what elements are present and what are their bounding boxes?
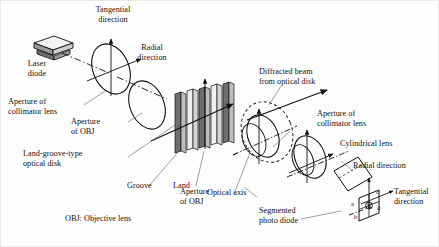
laser-diode xyxy=(34,36,73,60)
label-tangential-direction-left: Tangential direction xyxy=(82,5,144,24)
label-laser-diode: Laser diode xyxy=(16,59,58,78)
label-photodiode-segment-b: b xyxy=(354,213,357,220)
legend-obj-objective-lens: OBJ: Objective lens xyxy=(65,214,131,224)
label-aperture-collimator-left: Aperture of collimator lens xyxy=(8,97,94,116)
label-radial-direction-left: Radial direction xyxy=(130,43,174,62)
optical-pickup-diagram: Tangential direction Radial direction La… xyxy=(0,0,439,247)
label-groove: Groove xyxy=(127,181,152,191)
label-photodiode-segment-c: c xyxy=(376,188,379,195)
label-photodiode-segment-a: a xyxy=(351,200,354,207)
label-cylindrical-lens: Cylindrical lens xyxy=(340,139,392,149)
label-radial-direction-right: Radial direction xyxy=(353,161,406,171)
label-segmented-photo-diode: Segmented photo diode xyxy=(259,206,319,225)
objective-lens-aperture-left xyxy=(122,75,172,134)
label-aperture-obj-left: Aperture of OBJ xyxy=(71,117,129,136)
objective-lens-aperture-mid xyxy=(232,94,302,170)
label-diffracted-beam: Diffracted beam from optical disk xyxy=(259,67,349,86)
label-optical-axis: Optical axis xyxy=(207,188,247,198)
label-land-groove-disk: Land-groove-type optical disk xyxy=(23,149,127,168)
label-aperture-collimator-right: Aperture of collimator lens xyxy=(317,109,403,128)
label-photodiode-segment-d: d xyxy=(377,204,380,211)
label-tangential-direction-right: Tangential direction xyxy=(394,187,439,206)
collimator-lens-axes-right xyxy=(287,130,349,183)
